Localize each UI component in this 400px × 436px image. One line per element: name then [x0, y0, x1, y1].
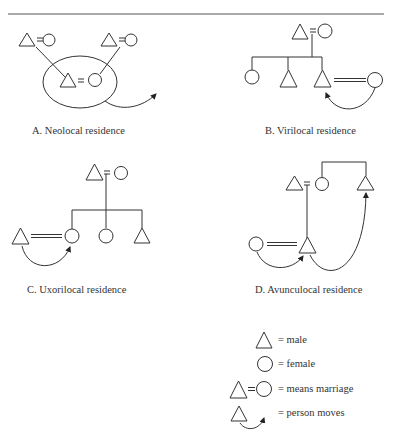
female-icon: [115, 167, 128, 180]
legend-male-icon: [256, 332, 272, 348]
female-icon: [245, 70, 259, 84]
female-icon: [125, 34, 137, 46]
female-icon: [318, 24, 332, 38]
move-arrow-icon: [310, 193, 366, 270]
male-icon: [19, 33, 35, 46]
legend-moves-text: = person moves: [278, 407, 345, 418]
female-icon: [99, 229, 113, 243]
female-icon: [249, 237, 263, 251]
move-arrow-icon: [326, 88, 375, 109]
legend-move-arrow-icon: [240, 418, 264, 429]
legend-male-text: = male: [278, 334, 307, 345]
legend-marriage-male-icon: [230, 381, 247, 398]
legend-marriage-text: = means marriage: [278, 383, 353, 394]
kinship-residence-diagram: [0, 0, 400, 436]
female-icon: [65, 229, 79, 243]
female-icon: [43, 34, 55, 46]
male-icon: [357, 176, 374, 190]
panel-b-diagram: [245, 24, 383, 109]
move-arrow-icon: [105, 94, 156, 107]
male-icon: [299, 237, 316, 253]
legend: [230, 332, 273, 429]
male-icon: [286, 176, 303, 190]
legend-female-text: = female: [278, 358, 315, 369]
male-icon: [292, 24, 308, 39]
male-icon: [314, 70, 331, 87]
male-icon: [101, 33, 117, 46]
legend-female-icon: [258, 357, 273, 372]
panel-b-caption: B. Virilocal residence: [265, 125, 356, 136]
move-arrow-icon: [257, 252, 303, 268]
female-icon: [368, 73, 383, 88]
male-icon: [86, 164, 103, 180]
male-icon: [134, 228, 150, 243]
panel-c-caption: C. Uxorilocal residence: [27, 284, 126, 295]
female-icon: [316, 178, 329, 191]
panel-d-caption: D. Avunculocal residence: [255, 284, 362, 295]
panel-a-caption: A. Neolocal residence: [32, 125, 125, 136]
panel-a-diagram: [19, 33, 156, 108]
panel-d-diagram: [249, 162, 374, 270]
legend-move-male-icon: [231, 406, 247, 421]
panel-c-diagram: [12, 164, 150, 266]
male-icon: [280, 70, 297, 87]
move-arrow-icon: [22, 246, 70, 266]
male-icon: [12, 228, 29, 244]
female-icon: [89, 74, 102, 87]
legend-marriage-female-icon: [257, 382, 272, 397]
male-icon: [60, 73, 76, 87]
